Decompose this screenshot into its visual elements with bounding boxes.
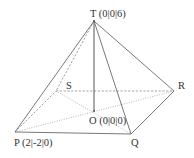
edge-PQ <box>15 132 131 134</box>
label-O: O (0|0|0) <box>89 115 127 127</box>
edge-TP <box>15 21 94 132</box>
edge-PS <box>15 91 56 132</box>
vertex-T <box>93 20 95 22</box>
label-T: T (0|0|6) <box>90 8 126 20</box>
pyramid-diagram: T (0|0|6) S R O (0|0|0) P (2|-2|0) Q <box>0 0 194 158</box>
label-R: R <box>178 80 185 91</box>
edge-TR <box>94 21 174 91</box>
vertex-O <box>93 110 95 112</box>
edge-QR <box>131 91 174 134</box>
label-Q: Q <box>131 137 139 148</box>
label-S: S <box>66 80 72 91</box>
label-P: P (2|-2|0) <box>14 137 53 149</box>
edge-TS <box>56 21 94 91</box>
